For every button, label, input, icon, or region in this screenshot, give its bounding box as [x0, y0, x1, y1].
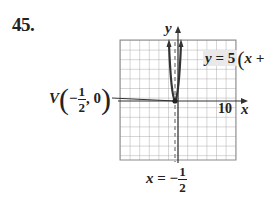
vertex-point — [172, 98, 177, 103]
x-tick-label-10: 10 — [218, 101, 232, 117]
equation-label: y = 5(x + — [203, 46, 264, 72]
y-axis-arrow-icon — [175, 26, 181, 33]
x-axis-label: x — [241, 101, 249, 118]
coordinate-plane — [0, 0, 276, 201]
axis-of-symmetry-label: x = −12 — [146, 165, 187, 194]
vertex-label: V(−12, 0) — [49, 82, 111, 116]
y-axis-label: y — [165, 20, 172, 37]
